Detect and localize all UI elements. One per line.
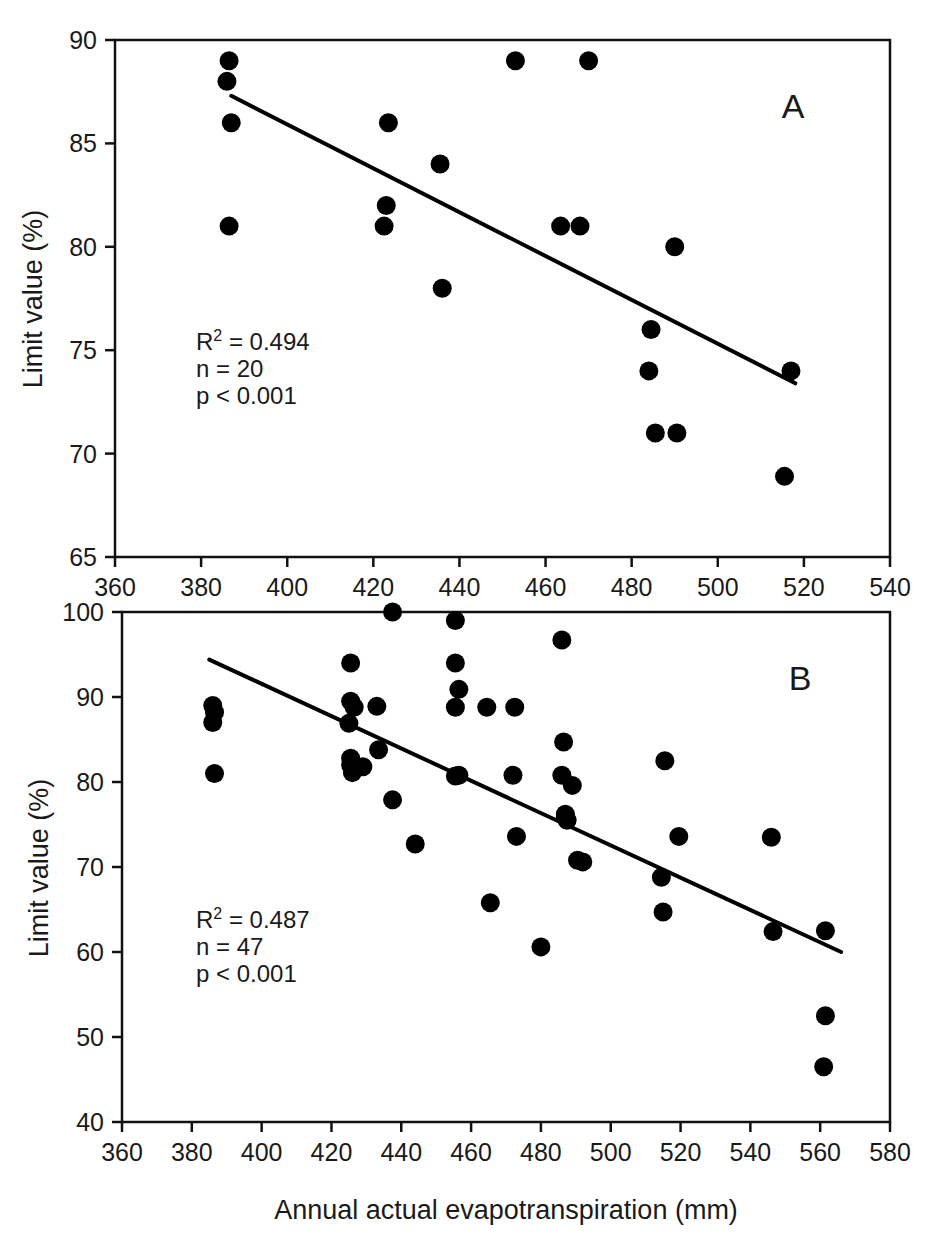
- x-tick-label: 540: [730, 1138, 772, 1166]
- data-point: [505, 698, 524, 717]
- x-tick-label: 440: [439, 573, 481, 601]
- data-point: [377, 196, 396, 215]
- x-tick-label: 440: [380, 1138, 422, 1166]
- data-point: [814, 1057, 833, 1076]
- data-point: [449, 680, 468, 699]
- data-point: [446, 611, 465, 630]
- stat-p-value: p < 0.001: [196, 960, 297, 987]
- data-point: [764, 922, 783, 941]
- panel-letter-b: B: [789, 659, 812, 697]
- x-tick-label: 360: [94, 573, 136, 601]
- data-point: [816, 1006, 835, 1025]
- stat-p-value: p < 0.001: [196, 382, 297, 409]
- stat-sample-size: n = 20: [196, 355, 263, 382]
- data-point: [571, 217, 590, 236]
- data-point: [433, 279, 452, 298]
- data-point: [503, 766, 522, 785]
- data-point: [345, 698, 364, 717]
- data-point: [665, 237, 684, 256]
- y-tick-label: 70: [69, 440, 97, 468]
- y-tick-label: 90: [76, 683, 104, 711]
- data-point: [655, 751, 674, 770]
- panel-b: 3603804004204404604805005205405605804050…: [24, 598, 911, 1225]
- data-point: [573, 852, 592, 871]
- panel-a: 3603804004204404604805005205406570758085…: [18, 26, 911, 601]
- x-tick-label: 380: [180, 573, 222, 601]
- data-point: [449, 766, 468, 785]
- x-tick-label: 360: [101, 1138, 143, 1166]
- data-point: [762, 828, 781, 847]
- y-tick-label: 80: [69, 233, 97, 261]
- data-point: [431, 155, 450, 174]
- stat-r-squared: R2 = 0.487: [196, 905, 310, 933]
- data-point: [383, 790, 402, 809]
- figure-container: 3603804004204404604805005205406570758085…: [0, 0, 935, 1239]
- data-point: [816, 921, 835, 940]
- data-point: [639, 361, 658, 380]
- data-point: [481, 893, 500, 912]
- y-tick-label: 85: [69, 129, 97, 157]
- data-point: [220, 51, 239, 70]
- data-point: [781, 361, 800, 380]
- x-tick-label: 500: [697, 573, 739, 601]
- stat-r-squared: R2 = 0.494: [196, 327, 310, 355]
- data-point: [477, 698, 496, 717]
- data-point: [506, 51, 525, 70]
- x-tick-label: 460: [525, 573, 567, 601]
- data-point-group: [203, 603, 835, 1077]
- regression-line: [231, 96, 795, 383]
- x-tick-label: 520: [783, 573, 825, 601]
- x-tick-label: 400: [241, 1138, 283, 1166]
- data-point: [556, 807, 575, 826]
- data-point: [205, 764, 224, 783]
- data-point: [579, 51, 598, 70]
- x-axis-title: Annual actual evapotranspiration (mm): [274, 1195, 738, 1225]
- x-tick-label: 580: [869, 1138, 911, 1166]
- data-point: [203, 713, 222, 732]
- data-point: [406, 835, 425, 854]
- data-point: [367, 697, 386, 716]
- x-tick-label: 520: [660, 1138, 702, 1166]
- stat-r-symbol: R: [196, 906, 213, 933]
- y-tick-label: 50: [76, 1023, 104, 1051]
- data-point: [775, 467, 794, 486]
- x-tick-label: 540: [869, 573, 911, 601]
- data-point: [353, 757, 372, 776]
- data-point: [369, 740, 388, 759]
- x-tick-label: 420: [311, 1138, 353, 1166]
- data-point: [217, 72, 236, 91]
- x-tick-label: 380: [171, 1138, 213, 1166]
- data-point: [220, 217, 239, 236]
- data-point: [669, 827, 688, 846]
- stat-r-value: = 0.487: [222, 906, 309, 933]
- data-point: [341, 654, 360, 673]
- x-tick-label: 460: [450, 1138, 492, 1166]
- stat-r-exponent: 2: [213, 905, 222, 922]
- data-point: [446, 654, 465, 673]
- x-tick-label: 480: [611, 573, 653, 601]
- y-tick-label: 60: [76, 938, 104, 966]
- data-point: [654, 903, 673, 922]
- panel-letter-a: A: [782, 87, 805, 125]
- y-axis-title: Limit value (%): [18, 210, 48, 389]
- data-point: [339, 714, 358, 733]
- data-point: [652, 868, 671, 887]
- stat-r-value: = 0.494: [222, 328, 309, 355]
- stat-sample-size: n = 47: [196, 933, 263, 960]
- y-tick-label: 70: [76, 853, 104, 881]
- data-point: [667, 423, 686, 442]
- y-tick-label: 80: [76, 768, 104, 796]
- data-point: [563, 776, 582, 795]
- plot-frame: [122, 612, 890, 1122]
- scatter-figure: 3603804004204404604805005205406570758085…: [0, 0, 935, 1239]
- data-point-group: [217, 51, 800, 486]
- x-tick-label: 400: [266, 573, 308, 601]
- x-tick-label: 420: [352, 573, 394, 601]
- y-tick-label: 40: [76, 1108, 104, 1136]
- stat-r-symbol: R: [196, 328, 213, 355]
- x-tick-label: 480: [520, 1138, 562, 1166]
- y-tick-label: 100: [62, 598, 104, 626]
- data-point: [531, 937, 550, 956]
- y-tick-label: 65: [69, 543, 97, 571]
- y-axis-title: Limit value (%): [24, 779, 54, 958]
